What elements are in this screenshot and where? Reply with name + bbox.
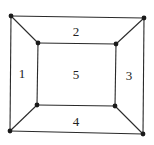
edge-outer-top-left-to-inner-top-left [11,16,38,43]
edge-inner-bottom-right-to-inner-bottom-left [37,105,115,106]
edge-outer-bottom-right-to-outer-bottom-left [10,131,143,134]
edge-outer-bottom-left-to-outer-top-left [10,16,11,131]
vertex-outer-bottom-right [141,132,146,137]
region-label-5: 5 [73,67,80,82]
vertex-inner-top-left [36,41,41,46]
region-label-3: 3 [126,68,133,83]
edge-outer-top-left-to-outer-top-right [11,16,144,18]
edge-inner-bottom-left-to-inner-top-left [37,43,38,105]
edge-outer-bottom-left-to-inner-bottom-left [10,105,37,131]
vertex-outer-bottom-left [8,129,13,134]
region-label-2: 2 [73,24,80,39]
edge-inner-top-left-to-inner-top-right [38,43,116,44]
edge-outer-top-right-to-inner-top-right [116,18,144,44]
edge-outer-bottom-right-to-inner-bottom-right [115,106,143,134]
vertex-inner-bottom-right [113,104,118,109]
vertex-outer-top-right [142,16,147,21]
vertex-inner-bottom-left [35,103,40,108]
vertex-inner-top-right [114,42,119,47]
region-label-1: 1 [19,66,26,81]
edge-inner-top-right-to-inner-bottom-right [115,44,116,106]
region-label-4: 4 [73,114,80,129]
planar-graph-diagram: 1 2 3 4 5 [0,0,154,145]
edge-outer-top-right-to-outer-bottom-right [143,18,144,134]
vertex-outer-top-left [9,14,14,19]
